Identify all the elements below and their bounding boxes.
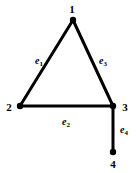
edge-label-e1: e1	[35, 56, 43, 66]
edge-label-e3: e3	[99, 56, 107, 66]
graph-svg	[0, 0, 139, 173]
node-dot-2	[17, 103, 23, 109]
edge-label-e2-subscript: 2	[66, 121, 70, 129]
edge-label-e2: e2	[62, 117, 70, 127]
node-dot-3	[110, 103, 116, 109]
edge-label-e1-subscript: 1	[39, 60, 43, 68]
graph-diagram: 1 2 3 4 e1 e2 e3 e4	[0, 0, 139, 173]
node-dot-4	[110, 149, 116, 155]
node-label-4: 4	[110, 159, 116, 170]
edge-label-e4-subscript: 4	[124, 129, 128, 137]
edge-label-e3-subscript: 3	[103, 60, 107, 68]
edge-line-e1	[20, 20, 73, 106]
node-label-1: 1	[69, 4, 75, 15]
node-dot-1	[70, 17, 76, 23]
node-label-3: 3	[122, 102, 128, 113]
edge-label-e4: e4	[120, 125, 128, 135]
node-label-2: 2	[6, 102, 12, 113]
edge-lines	[20, 20, 113, 152]
